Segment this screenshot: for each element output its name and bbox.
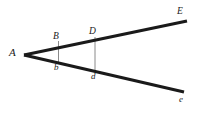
vertex-label-D: D	[89, 27, 96, 37]
vertex-label-A: A	[9, 47, 16, 58]
vertex-label-B: B	[53, 32, 59, 42]
geometry-diagram: A B b D d E e	[0, 0, 197, 113]
vertex-label-b: b	[54, 63, 59, 72]
vertex-label-e: e	[179, 95, 183, 104]
vertex-label-d: d	[91, 72, 96, 81]
vertex-label-E: E	[177, 7, 183, 17]
diagram-canvas	[0, 0, 197, 113]
